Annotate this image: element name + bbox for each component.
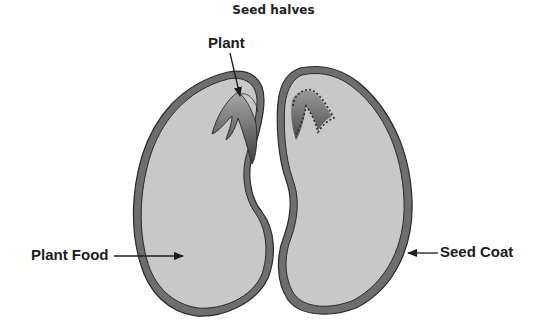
seed-diagram	[0, 0, 547, 335]
left-seed-half	[133, 71, 273, 316]
right-seed-half	[277, 67, 412, 315]
